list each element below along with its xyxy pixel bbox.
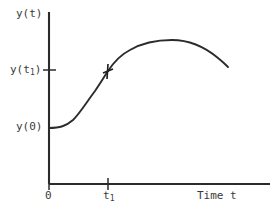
origin-label: 0: [45, 190, 52, 201]
y-axis-label: y(t): [16, 8, 43, 19]
y-initial-value-label: y(0): [16, 121, 43, 132]
t1-tick-label-subscript: 1: [110, 194, 115, 203]
y-value-at-t1-prefix: y(t: [10, 63, 30, 76]
y-value-at-t1-suffix: ): [35, 63, 42, 76]
plot-area: [0, 0, 279, 218]
t1-tick-label-prefix: t: [103, 189, 110, 202]
growth-curve: [49, 40, 228, 128]
t1-tick-label: t1: [103, 190, 114, 203]
figure-container: y(t) y(t1) y(0) 0 t1 Time t: [0, 0, 279, 218]
x-axis-label: Time t: [197, 190, 237, 201]
y-value-at-t1-label: y(t1): [10, 64, 41, 77]
